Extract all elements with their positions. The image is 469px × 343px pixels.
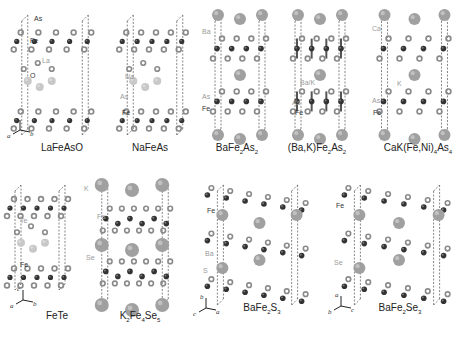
caption-subscript: 3	[418, 309, 421, 315]
structure-panel-bafe2se3: FeSeabcBaFe2Se3	[0, 0, 469, 343]
axis-label-b: b	[328, 308, 332, 316]
caption-text: Se	[406, 302, 418, 313]
caption-text: BaFe	[379, 302, 403, 313]
axis-label-c: c	[351, 306, 354, 314]
axes-icon	[0, 0, 469, 343]
caption-bafe2se3: BaFe2Se3	[379, 302, 422, 315]
axis-label-a: a	[335, 291, 339, 299]
